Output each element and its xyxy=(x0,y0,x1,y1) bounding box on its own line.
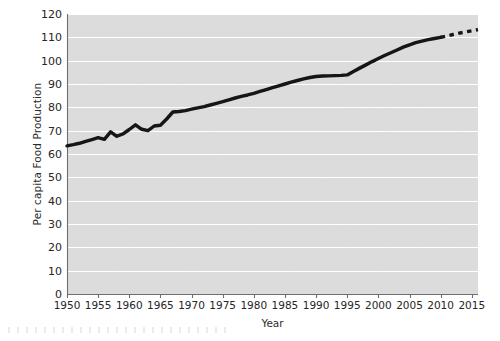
chart-figure: Per capita Food Production 0102030405060… xyxy=(0,0,500,341)
scan-artifact xyxy=(8,327,228,333)
x-axis-tick-labels: 1950195519601965197019751980198519901995… xyxy=(0,300,500,316)
plot-area xyxy=(0,0,500,341)
x-tick-label: 2015 xyxy=(452,300,492,311)
